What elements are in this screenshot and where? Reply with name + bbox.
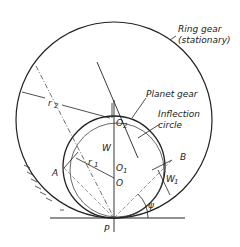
svg-text:2: 2 bbox=[54, 102, 59, 110]
label-r1: r bbox=[88, 157, 93, 167]
label-planet-gear: Planet gear bbox=[146, 89, 199, 99]
b-line bbox=[152, 160, 172, 170]
ring-pointer bbox=[170, 36, 176, 40]
svg-text:1: 1 bbox=[94, 161, 98, 169]
label-circle: circle bbox=[158, 120, 183, 130]
r2-dim bbox=[62, 105, 110, 118]
a-tick bbox=[64, 152, 78, 168]
label-r2: r bbox=[48, 98, 53, 108]
label-b: B bbox=[180, 152, 186, 162]
label-inflection: Inflection bbox=[158, 109, 200, 119]
a-line bbox=[64, 168, 114, 218]
label-stationary: (stationary) bbox=[178, 35, 231, 45]
svg-text:1: 1 bbox=[174, 178, 178, 186]
label-ring-gear: Ring gear bbox=[178, 24, 223, 34]
svg-text:2: 2 bbox=[123, 122, 128, 130]
label-w: W bbox=[102, 143, 112, 153]
svg-text:1: 1 bbox=[123, 167, 127, 175]
r2-arrow bbox=[22, 92, 45, 98]
r2-line bbox=[36, 66, 114, 218]
label-o: O bbox=[116, 178, 123, 188]
label-psi: ψ bbox=[148, 200, 155, 210]
planet-pointer bbox=[132, 98, 146, 118]
label-p: P bbox=[104, 224, 110, 234]
gear-diagram: Ring gear (stationary) Planet gear Infle… bbox=[0, 0, 240, 247]
label-a: A bbox=[51, 168, 58, 178]
